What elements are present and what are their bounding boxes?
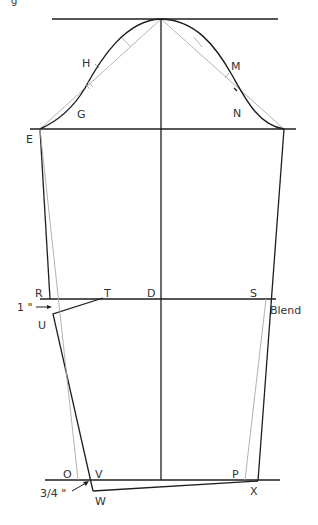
label-E: E bbox=[26, 133, 33, 146]
label-N: N bbox=[233, 107, 241, 120]
label-one-inch: 1 " bbox=[17, 301, 33, 314]
label-P: P bbox=[232, 468, 239, 481]
cap-guide-left bbox=[40, 19, 161, 129]
arrow-three-quarter-inch bbox=[72, 481, 89, 491]
wrist-hem bbox=[93, 481, 258, 491]
label-three-quarter-inch: 3/4 " bbox=[40, 487, 66, 500]
label-U: U bbox=[38, 319, 46, 332]
cap-tick-left-upper bbox=[122, 38, 131, 47]
label-blend: Blend bbox=[270, 304, 301, 317]
label-R: R bbox=[35, 287, 43, 300]
elbow-dart-left bbox=[53, 298, 103, 491]
label-O: O bbox=[63, 468, 72, 481]
label-T: T bbox=[103, 287, 111, 300]
caption-fragment: g bbox=[11, 0, 17, 6]
left-seam-guide bbox=[40, 129, 78, 480]
sleeve-pattern-diagram: g H G M N E R T D S Blend 1 " U O V P 3/… bbox=[0, 0, 318, 525]
cap-tick-right-upper bbox=[194, 37, 202, 47]
label-D: D bbox=[147, 287, 155, 300]
label-W: W bbox=[95, 495, 106, 508]
right-seam-guide bbox=[245, 299, 266, 480]
label-G: G bbox=[77, 108, 86, 121]
label-M: M bbox=[231, 60, 241, 73]
notch-mark-right bbox=[234, 88, 237, 91]
arrow-one-inch bbox=[36, 305, 52, 309]
label-S: S bbox=[250, 287, 257, 300]
cap-tick-right-lower bbox=[225, 73, 229, 78]
label-X: X bbox=[250, 485, 258, 498]
label-H: H bbox=[82, 57, 90, 70]
label-V: V bbox=[95, 468, 103, 481]
left-seam-upper bbox=[40, 129, 50, 299]
cap-guide-right bbox=[161, 19, 284, 129]
